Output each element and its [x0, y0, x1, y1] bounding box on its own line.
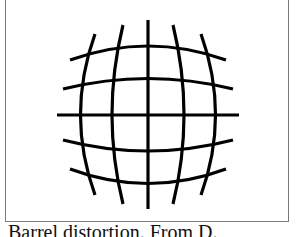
- figure-caption: Barrel distortion. From D.: [8, 220, 217, 237]
- barrel-distortion-grid-illustration: [0, 0, 299, 237]
